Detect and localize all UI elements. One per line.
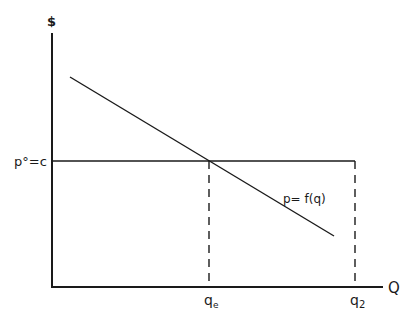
demand-curve (70, 77, 334, 236)
curve-label: p= f(q) (283, 192, 326, 206)
qe-tick-label: qe (204, 292, 219, 310)
q2-tick-label: q2 (350, 292, 365, 310)
demand-diagram: $ Q p°=c p= f(q) qe q2 (0, 0, 408, 325)
x-axis-label: Q (388, 279, 400, 297)
y-axis-label: $ (47, 14, 56, 29)
price-label: p°=c (14, 154, 47, 169)
